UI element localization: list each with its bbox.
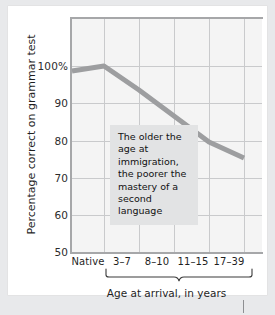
y-tick-90: 90	[10, 97, 68, 109]
y-tick-80: 80	[10, 135, 68, 147]
x-tick-native: Native	[72, 256, 105, 267]
figure-card: 100% 90 80 70 60 50 Percentage correct o…	[8, 6, 267, 295]
annotation-line-4: mastery of a	[118, 181, 191, 193]
annotation-line-2: age at immigration,	[118, 143, 191, 168]
annotation-line-1: The older the	[118, 131, 191, 143]
y-axis-title: Percentage correct on grammar test	[25, 20, 38, 250]
annotation-line-3: the poorer the	[118, 168, 191, 180]
y-tick-50: 50	[10, 246, 68, 258]
line-chart: 100% 90 80 70 60 50 Percentage correct o…	[8, 6, 267, 295]
y-tick-70: 70	[10, 172, 68, 184]
x-tick-17-39: 17–39	[214, 256, 245, 267]
x-tick-11-15: 11–15	[178, 256, 209, 267]
y-tick-labels: 100% 90 80 70 60 50	[8, 6, 68, 295]
brace-path	[106, 269, 252, 281]
page-tick-mark	[243, 300, 244, 313]
annotation-callout: The older the age at immigration, the po…	[110, 125, 198, 225]
age-group-brace	[104, 268, 254, 282]
x-tick-8-10: 8–10	[145, 256, 170, 267]
screenshot-root: 100% 90 80 70 60 50 Percentage correct o…	[0, 0, 275, 315]
annotation-line-5: second language	[118, 193, 191, 218]
x-tick-3-7: 3–7	[113, 256, 131, 267]
y-tick-60: 60	[10, 209, 68, 221]
x-axis-title: Age at arrival, in years	[70, 287, 263, 299]
y-tick-100: 100%	[10, 60, 68, 72]
